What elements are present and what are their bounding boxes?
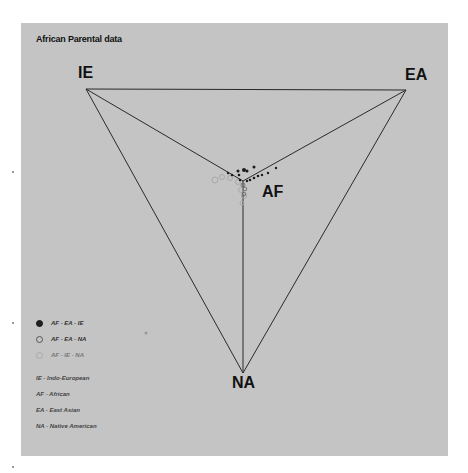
triangle-frame	[86, 89, 406, 90]
edge-mark	[12, 322, 14, 324]
ternary-plot	[0, 0, 468, 473]
stray-mark	[145, 332, 148, 335]
center-label-af: AF	[262, 183, 283, 201]
edge-mark	[12, 171, 14, 173]
series-af-ie-na	[212, 175, 247, 206]
edge-mark	[12, 466, 14, 468]
triangle-spokes	[86, 89, 406, 373]
series-af-ea-ie	[227, 166, 277, 183]
vertex-label-ea: EA	[405, 66, 427, 84]
vertex-label-na: NA	[232, 374, 255, 392]
vertex-label-ie: IE	[78, 64, 93, 82]
